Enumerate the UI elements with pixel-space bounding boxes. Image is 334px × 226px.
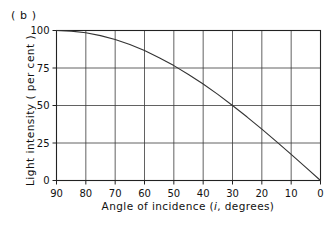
x-axis-tick-label: 20 [255,188,268,199]
y-axis-tick-label: 25 [37,138,50,149]
chart-plot-area: 90807060504030201000255075100 [0,0,334,226]
x-axis-tick-label: 40 [197,188,210,199]
x-axis-tick-label: 60 [138,188,151,199]
x-axis-tick-label: 90 [50,188,63,199]
x-axis-tick-label: 70 [109,188,122,199]
y-axis-tick-label: 100 [30,25,49,36]
y-axis-tick-label: 0 [43,175,49,186]
x-axis-tick-label: 10 [285,188,298,199]
x-axis-tick-label: 50 [167,188,180,199]
figure-panel: ( b ) Light intensity ( per cent ) Angle… [0,0,334,226]
x-axis-tick-label: 0 [317,188,323,199]
x-axis-tick-label: 80 [79,188,92,199]
x-axis-tick-label: 30 [226,188,239,199]
y-axis-tick-label: 75 [37,63,50,74]
y-axis-tick-label: 50 [37,100,50,111]
